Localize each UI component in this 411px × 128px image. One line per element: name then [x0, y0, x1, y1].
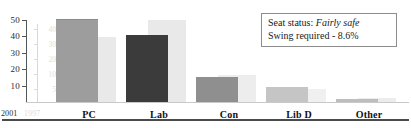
primary-tick-label: 50: [0, 16, 20, 25]
primary-tick-mark: [22, 20, 27, 21]
primary-tick-label: 10: [0, 82, 20, 91]
secondary-tick-mark: [34, 59, 38, 60]
primary-tick-label: 20: [0, 65, 20, 74]
seat-status-annotation-box: Seat status: Fairly safe Swing required …: [261, 13, 397, 47]
secondary-y-axis-line: [37, 24, 38, 102]
bar-group-pc: [56, 6, 122, 102]
primary-tick-mark: [22, 69, 27, 70]
secondary-tick-mark: [34, 44, 38, 45]
bar-libd-2001: [266, 87, 308, 102]
primary-tick-label: 30: [0, 49, 20, 58]
secondary-tick-mark: [34, 89, 38, 90]
secondary-tick-label: 5: [40, 86, 56, 94]
series-label-2001: 2001: [1, 110, 17, 118]
bar-group-lab: [126, 6, 192, 102]
secondary-tick-label: 30: [40, 41, 56, 49]
annotation-line-swing-required: Swing required - 8.6%: [268, 30, 390, 43]
secondary-tick-label: 20: [40, 56, 56, 64]
primary-tick-label: 40: [0, 32, 20, 41]
primary-tick-mark: [22, 86, 27, 87]
annotation-seat-status-value: Fairly safe: [316, 17, 360, 28]
bar-pc-2001: [56, 19, 98, 102]
x-axis-baseline: [26, 102, 409, 103]
annotation-seat-status-prefix: Seat status:: [268, 17, 313, 28]
secondary-tick-mark: [34, 29, 38, 30]
primary-tick-mark: [22, 36, 27, 37]
series-label-1997: 1997: [24, 110, 40, 118]
primary-tick-mark: [22, 53, 27, 54]
bar-chart-figure: 50 40 30 20 10 40 30 20 10 5: [0, 0, 411, 128]
bar-group-con: [196, 6, 262, 102]
bottom-divider: [2, 119, 409, 121]
bar-con-2001: [196, 77, 238, 102]
secondary-tick-mark: [34, 74, 38, 75]
bar-other-2001: [336, 99, 378, 102]
secondary-tick-label: 40: [40, 26, 56, 34]
primary-y-axis-line: [26, 20, 27, 102]
bar-lab-2001: [126, 35, 168, 102]
annotation-line-seat-status: Seat status: Fairly safe: [268, 17, 390, 30]
secondary-tick-label: 10: [40, 71, 56, 79]
